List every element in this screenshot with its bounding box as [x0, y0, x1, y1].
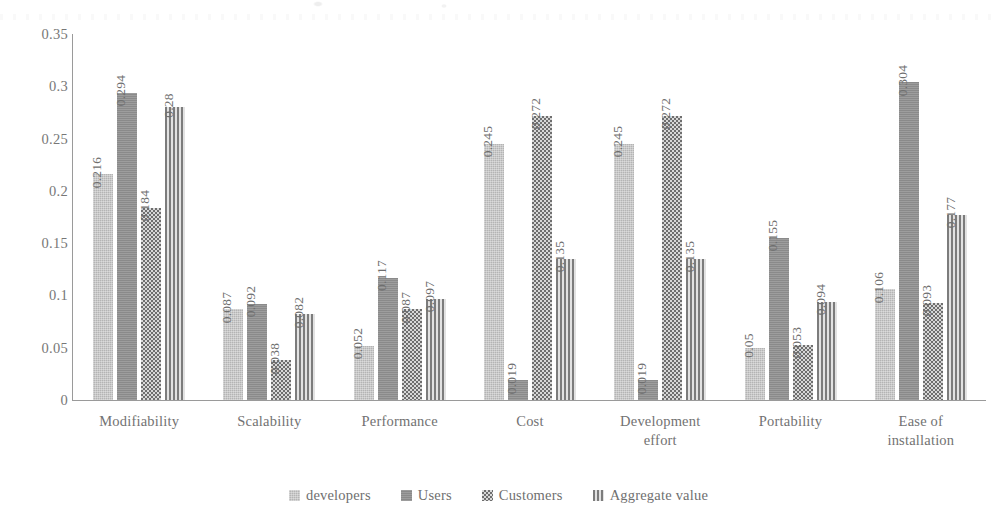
bar-slot: 0.294	[117, 34, 137, 400]
legend-item[interactable]: developers	[289, 487, 371, 504]
x-axis-category-label-line: Cost	[465, 412, 595, 431]
bar-value-label-box: 0.05	[745, 302, 765, 348]
bar-value-label-box: 0.294	[117, 47, 137, 93]
bar-value-label: 0.117	[374, 260, 388, 291]
legend-swatch-icon	[401, 490, 412, 501]
bar[interactable]: 0.053	[793, 345, 813, 400]
x-axis-category-label: Ease ofinstallation	[856, 412, 986, 450]
bar-value-label: 0.216	[90, 156, 104, 187]
bar[interactable]: 0.087	[402, 309, 422, 400]
bar-value-label-box: 0.135	[556, 213, 576, 259]
bar-value-label-box: 0.177	[947, 169, 967, 215]
legend-item[interactable]: Users	[401, 487, 452, 504]
bar-slot: 0.155	[769, 34, 789, 400]
bar-value-label-box: 0.097	[426, 253, 446, 299]
bar-value-label: 0.019	[635, 362, 649, 393]
bar-value-label: 0.053	[789, 327, 803, 358]
legend-label: developers	[306, 487, 371, 504]
x-axis-category-label: Portability	[725, 412, 855, 431]
plot-area: 0.2160.2940.1840.280.0870.0920.0380.0820…	[74, 34, 986, 400]
bar-group: 0.0870.0920.0380.082	[204, 34, 334, 400]
bar[interactable]: 0.184	[141, 208, 161, 400]
bar-value-label: 0.272	[659, 98, 673, 129]
bar-value-label: 0.135	[683, 241, 697, 272]
legend-label: Aggregate value	[610, 487, 708, 504]
bar-group: 0.2450.0190.2720.135	[595, 34, 725, 400]
bar-value-label: 0.038	[268, 343, 282, 374]
bar-value-label-box: 0.093	[923, 257, 943, 303]
bar[interactable]: 0.106	[875, 289, 895, 400]
bar[interactable]: 0.28	[165, 107, 185, 400]
bar-value-label-box: 0.087	[402, 263, 422, 309]
bar[interactable]: 0.094	[817, 302, 837, 400]
legend-swatch-icon	[593, 490, 604, 501]
bar-slot: 0.28	[165, 34, 185, 400]
x-axis-category-label: Cost	[465, 412, 595, 431]
bar[interactable]: 0.155	[769, 238, 789, 400]
bar[interactable]: 0.117	[378, 278, 398, 400]
y-axis-tick: 0.35	[6, 27, 68, 42]
x-axis-line	[72, 400, 986, 401]
bar[interactable]: 0.038	[271, 360, 291, 400]
bar[interactable]: 0.092	[247, 304, 267, 400]
bar-slot: 0.304	[899, 34, 919, 400]
legend-item[interactable]: Customers	[482, 487, 563, 504]
y-axis-tick: 0.1	[6, 288, 68, 303]
bar-slot: 0.052	[354, 34, 374, 400]
bar-value-label-box: 0.245	[614, 98, 634, 144]
bar[interactable]: 0.05	[745, 348, 765, 400]
bar-slot: 0.177	[947, 34, 967, 400]
bar-value-label-box: 0.304	[899, 36, 919, 82]
bar[interactable]: 0.052	[354, 346, 374, 400]
legend-item[interactable]: Aggregate value	[593, 487, 708, 504]
bar[interactable]: 0.294	[117, 93, 137, 400]
bar-slot: 0.087	[223, 34, 243, 400]
bar[interactable]: 0.304	[899, 82, 919, 400]
x-axis-category-label-line: effort	[595, 431, 725, 450]
x-axis-category-label: Performance	[335, 412, 465, 431]
bar-value-label-box: 0.052	[354, 300, 374, 346]
bar[interactable]: 0.019	[638, 380, 658, 400]
bar[interactable]: 0.082	[295, 314, 315, 400]
bar[interactable]: 0.093	[923, 303, 943, 400]
bar-value-label: 0.245	[480, 126, 494, 157]
bar[interactable]: 0.245	[484, 144, 504, 400]
y-axis-tick: 0	[6, 393, 68, 408]
bar-slot: 0.135	[556, 34, 576, 400]
bar[interactable]: 0.135	[556, 259, 576, 400]
bar-group-bars: 0.0870.0920.0380.082	[204, 34, 334, 400]
bar-value-label-box: 0.117	[378, 232, 398, 278]
bar-value-label-box: 0.135	[686, 213, 706, 259]
legend-label: Customers	[499, 487, 563, 504]
y-axis-tick: 0.15	[6, 236, 68, 251]
bar-value-label-box: 0.272	[662, 70, 682, 116]
bar-value-label: 0.092	[244, 286, 258, 317]
x-axis-category-label: Scalability	[204, 412, 334, 431]
bar-value-label-box: 0.038	[271, 314, 291, 360]
bar-value-label-box: 0.053	[793, 299, 813, 345]
bar[interactable]: 0.019	[508, 380, 528, 400]
bar-value-label-box: 0.245	[484, 98, 504, 144]
bar-value-label-box: 0.155	[769, 192, 789, 238]
bar-group: 0.2160.2940.1840.28	[74, 34, 204, 400]
bar-group-bars: 0.1060.3040.0930.177	[856, 34, 986, 400]
bar[interactable]: 0.097	[426, 299, 446, 400]
bar-value-label: 0.106	[871, 271, 885, 302]
bar[interactable]: 0.135	[686, 259, 706, 400]
x-axis-category-label-line: Scalability	[204, 412, 334, 431]
bar-value-label-box: 0.019	[508, 334, 528, 380]
bar-slot: 0.094	[817, 34, 837, 400]
bar-value-label: 0.019	[504, 362, 518, 393]
bar[interactable]: 0.272	[662, 116, 682, 400]
bar[interactable]: 0.177	[947, 215, 967, 400]
bar-slot: 0.245	[484, 34, 504, 400]
bar-group: 0.050.1550.0530.094	[725, 34, 855, 400]
bar-value-label: 0.093	[919, 285, 933, 316]
bar[interactable]: 0.087	[223, 309, 243, 400]
bar-slot: 0.272	[662, 34, 682, 400]
bar-slot: 0.05	[745, 34, 765, 400]
bar[interactable]: 0.216	[93, 174, 113, 400]
bar[interactable]: 0.245	[614, 144, 634, 400]
bar[interactable]: 0.272	[532, 116, 552, 400]
x-axis-category-label-line: Performance	[335, 412, 465, 431]
